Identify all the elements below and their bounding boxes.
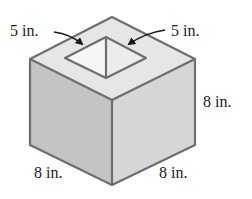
label-height: 8 in. [203, 93, 231, 110]
cube-diagram: 5 in. 5 in. 8 in. 8 in. 8 in. [0, 0, 252, 199]
label-hole-left: 5 in. [10, 22, 38, 39]
label-front-left-edge: 8 in. [34, 164, 62, 181]
label-front-right-edge: 8 in. [159, 164, 187, 181]
label-hole-right: 5 in. [171, 22, 199, 39]
